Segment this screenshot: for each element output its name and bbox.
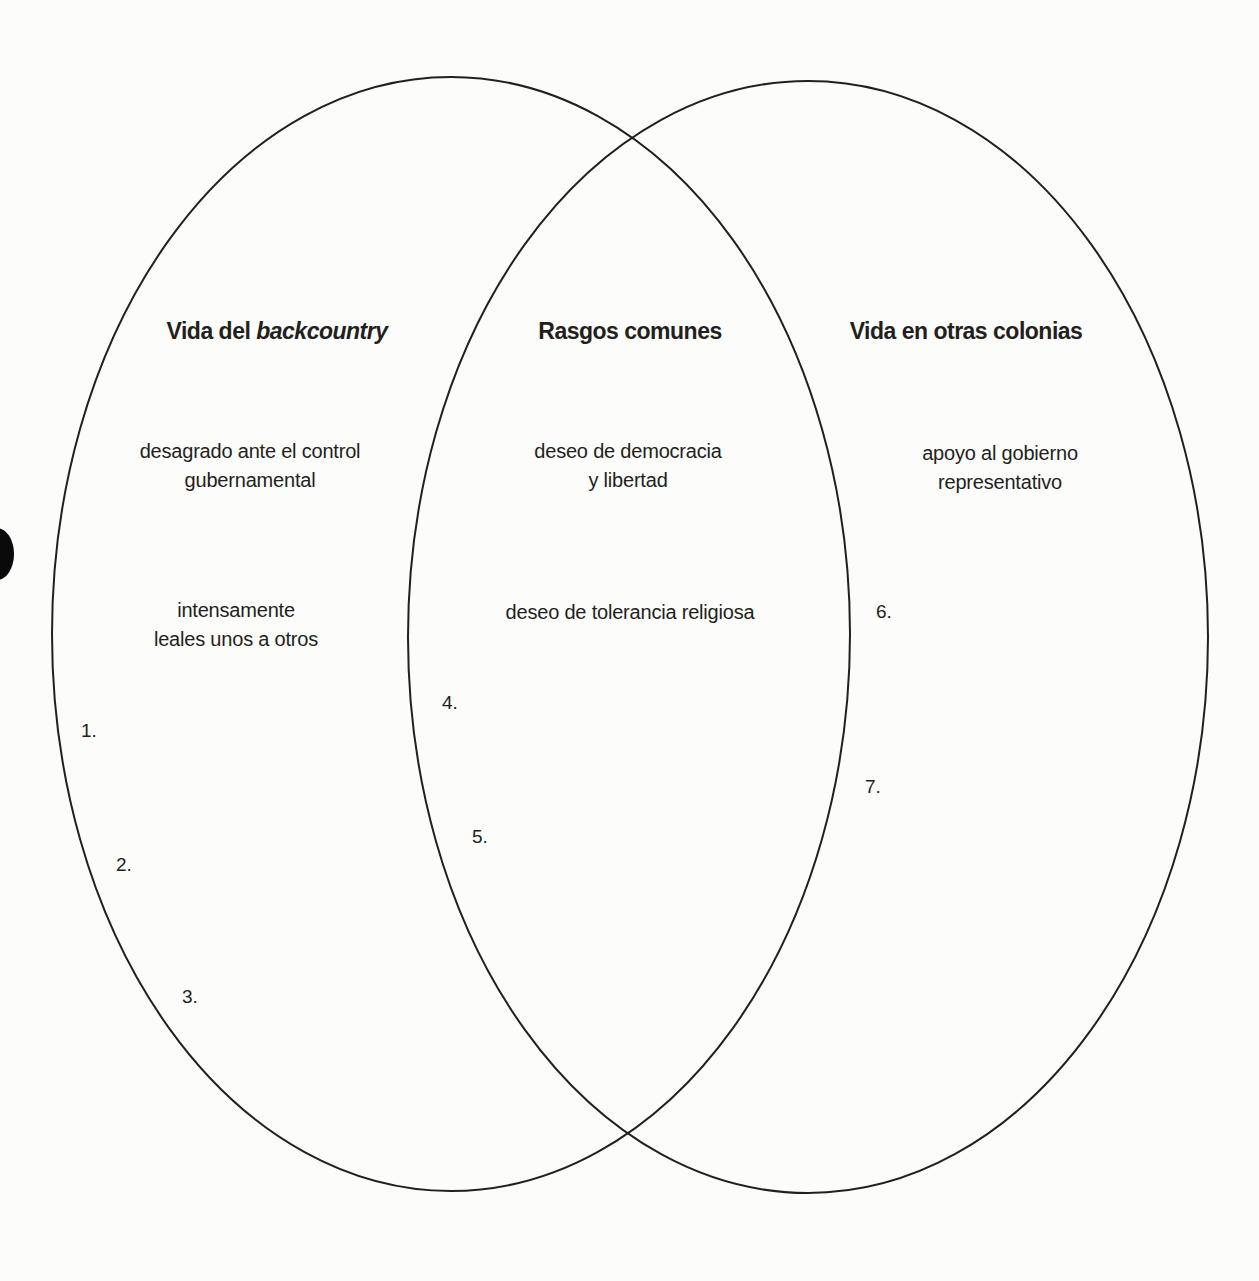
heading-backcountry-prefix: Vida del: [167, 318, 257, 344]
item-text: deseo de democraciay libertad: [534, 437, 721, 495]
blank-6[interactable]: 6.: [876, 601, 892, 623]
heading-backcountry: Vida del backcountry: [167, 318, 388, 345]
blank-5[interactable]: 5.: [472, 826, 488, 848]
item-representative-govt: apoyo al gobiernorepresentativo: [922, 439, 1078, 497]
right-ellipse: [408, 81, 1208, 1193]
blank-3[interactable]: 3.: [182, 986, 198, 1008]
heading-common-traits: Rasgos comunes: [538, 318, 721, 345]
item-text: intensamenteleales unos a otros: [154, 596, 318, 654]
item-religious-tolerance: deseo de tolerancia religiosa: [506, 598, 755, 627]
blank-7[interactable]: 7.: [865, 776, 881, 798]
item-loyal: intensamenteleales unos a otros: [154, 596, 318, 654]
item-text: deseo de tolerancia religiosa: [506, 598, 755, 627]
blank-4[interactable]: 4.: [442, 692, 458, 714]
item-text: desagrado ante el controlgubernamental: [140, 437, 361, 495]
item-text: apoyo al gobiernorepresentativo: [922, 439, 1078, 497]
item-democracy: deseo de democraciay libertad: [534, 437, 721, 495]
item-govt-control: desagrado ante el controlgubernamental: [140, 437, 361, 495]
blank-1[interactable]: 1.: [81, 720, 97, 742]
heading-other-colonies: Vida en otras colonias: [850, 318, 1083, 345]
blank-2[interactable]: 2.: [116, 854, 132, 876]
heading-backcountry-italic: backcountry: [256, 318, 387, 344]
